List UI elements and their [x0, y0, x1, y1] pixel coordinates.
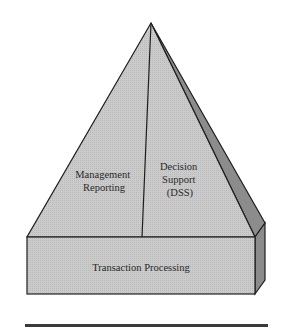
- bottom-rule: [25, 324, 268, 327]
- pyramid-front-face: [27, 23, 255, 237]
- pyramid-diagram: Management Reporting Decision Support (D…: [0, 0, 286, 328]
- transaction-processing-label: Transaction Processing: [92, 262, 190, 273]
